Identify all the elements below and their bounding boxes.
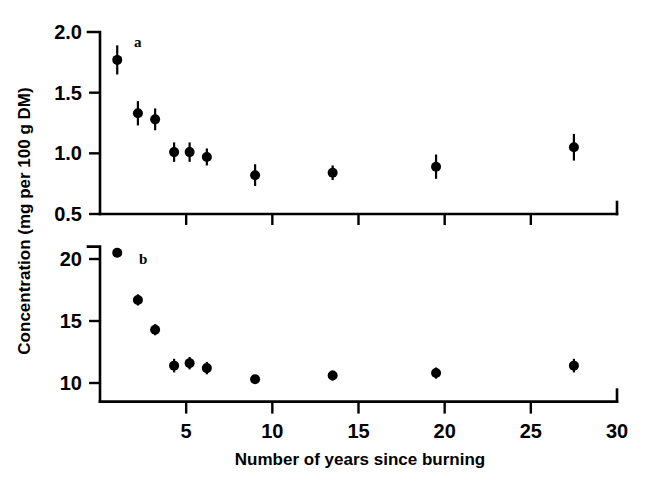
data-point <box>169 359 179 373</box>
figure-canvas: Concentration (mg per 100 g DM) 0.51.01.… <box>0 0 649 490</box>
data-point <box>328 165 338 180</box>
data-point <box>112 248 122 258</box>
panel-b-y-tick-label: 20 <box>60 248 82 270</box>
panel-b-y-tick-label: 15 <box>60 310 82 332</box>
data-point <box>112 45 122 74</box>
x-axis-title: Number of years since burning <box>235 450 485 469</box>
data-point <box>133 294 143 305</box>
data-point <box>250 374 260 384</box>
y-axis-title: Concentration (mg per 100 g DM) <box>15 87 34 354</box>
panel-a-y-tick-label: 1.0 <box>54 142 82 164</box>
panel-a-label: a <box>134 34 142 50</box>
panel-b-x-tick-label: 25 <box>520 420 542 442</box>
panel-a-x-axis <box>100 202 617 225</box>
panel-a-y-tick-label: 0.5 <box>54 203 82 225</box>
data-point <box>250 164 260 186</box>
data-point <box>202 362 212 374</box>
panel-a-y-tick-label: 1.5 <box>54 82 82 104</box>
data-point <box>185 142 195 161</box>
panel-b-x-tick-labels: 51015202530 <box>181 420 629 442</box>
data-point <box>185 357 195 369</box>
data-point <box>133 101 143 125</box>
panel-b-y-tick-label: 10 <box>60 372 82 394</box>
panel-b-y-axis <box>88 247 100 402</box>
panel-a-y-tick-labels: 0.51.01.52.0 <box>54 21 82 225</box>
panel-b: 101520 51015202530 b <box>60 247 628 442</box>
panel-a-y-tick-label: 2.0 <box>54 21 82 43</box>
panel-b-label: b <box>139 251 147 267</box>
data-point <box>328 371 338 381</box>
chart-svg: Concentration (mg per 100 g DM) 0.51.01.… <box>0 0 649 490</box>
panel-b-x-tick-label: 10 <box>261 420 283 442</box>
panel-b-y-tick-labels: 101520 <box>60 248 82 394</box>
panel-b-x-tick-label: 5 <box>181 420 192 442</box>
data-point <box>150 324 160 335</box>
data-point <box>569 134 579 161</box>
panel-b-x-tick-label: 15 <box>347 420 369 442</box>
panel-b-data-points <box>112 248 579 384</box>
data-point <box>431 155 441 179</box>
panel-b-x-tick-label: 30 <box>606 420 628 442</box>
data-point <box>202 148 212 165</box>
data-point <box>569 359 579 373</box>
panel-b-x-axis <box>100 390 617 414</box>
panel-a: 0.51.01.52.0 a <box>54 21 617 225</box>
panel-a-y-axis <box>88 32 100 214</box>
data-point <box>150 108 160 130</box>
panel-a-data-points <box>112 45 579 186</box>
data-point <box>169 142 179 161</box>
panel-b-x-tick-label: 20 <box>434 420 456 442</box>
data-point <box>431 368 441 379</box>
